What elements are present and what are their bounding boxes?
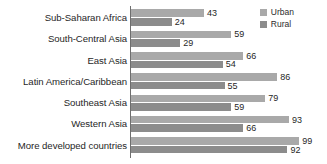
bar-group: Western Asia 93 66 xyxy=(0,113,327,134)
bar-group: Latin America/Caribbean 86 55 xyxy=(0,71,327,92)
bar-pair: 66 54 xyxy=(131,50,327,71)
bar-value-rural: 55 xyxy=(225,81,238,90)
bar-fill-rural xyxy=(131,124,243,132)
bar-pair: 79 59 xyxy=(131,92,327,113)
bar-value-rural: 24 xyxy=(172,17,185,26)
bar-group: South-Central Asia 59 29 xyxy=(0,28,327,49)
category-label: Western Asia xyxy=(1,113,127,134)
bar-group: Sub-Saharan Africa 43 24 xyxy=(0,7,327,28)
bar-group: Southeast Asia 79 59 xyxy=(0,92,327,113)
bar-value-rural: 54 xyxy=(223,60,236,69)
bar-fill-rural xyxy=(131,61,223,69)
bar-fill-urban xyxy=(131,9,204,17)
bar-value-urban: 99 xyxy=(299,136,312,145)
plot-area: Sub-Saharan Africa 43 24 South-Central A… xyxy=(0,4,327,160)
bar-fill-urban xyxy=(131,137,299,145)
bar-value-urban: 43 xyxy=(204,9,217,18)
bar-fill-urban xyxy=(131,116,289,124)
category-label: Southeast Asia xyxy=(1,92,127,113)
bar-value-rural: 66 xyxy=(243,124,256,133)
bar-pair: 86 55 xyxy=(131,71,327,92)
category-label: East Asia xyxy=(1,50,127,71)
bar-value-rural: 59 xyxy=(231,102,244,111)
grouped-bar-chart: Urban Rural Sub-Saharan Africa 43 24 xyxy=(0,0,327,164)
bar-pair: 59 29 xyxy=(131,28,327,49)
bar-pair: 99 92 xyxy=(131,135,327,156)
bar-fill-rural xyxy=(131,82,225,90)
bar-fill-rural xyxy=(131,39,180,47)
bar-value-urban: 59 xyxy=(231,30,244,39)
bar-fill-rural xyxy=(131,18,172,26)
bar-value-urban: 66 xyxy=(243,51,256,60)
bar-fill-urban xyxy=(131,95,265,103)
bar-value-urban: 86 xyxy=(277,73,290,82)
bar-pair: 93 66 xyxy=(131,113,327,134)
bar-group: More developed countries 99 92 xyxy=(0,135,327,156)
bar-value-urban: 79 xyxy=(265,94,278,103)
bar-group: East Asia 66 54 xyxy=(0,50,327,71)
bar-value-rural: 92 xyxy=(287,145,300,154)
bar-fill-rural xyxy=(131,146,287,154)
bar-fill-rural xyxy=(131,103,231,111)
bar-rows: Sub-Saharan Africa 43 24 South-Central A… xyxy=(0,7,327,156)
bar-pair: 43 24 xyxy=(131,7,327,28)
bar-fill-urban xyxy=(131,31,231,39)
bar-value-rural: 29 xyxy=(180,39,193,48)
bar-value-urban: 93 xyxy=(289,115,302,124)
category-label: South-Central Asia xyxy=(1,28,127,49)
category-label: More developed countries xyxy=(1,135,127,156)
bar-fill-urban xyxy=(131,73,277,81)
category-label: Latin America/Caribbean xyxy=(1,71,127,92)
category-label: Sub-Saharan Africa xyxy=(1,7,127,28)
